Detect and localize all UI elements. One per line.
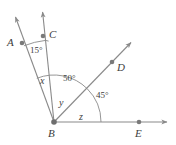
point-dot-C — [41, 34, 46, 39]
point-dot-E — [137, 120, 142, 125]
point-label-C: C — [49, 29, 56, 40]
point-label-E: E — [135, 128, 142, 139]
angle-label-y: y — [59, 98, 63, 108]
point-dot-D — [110, 60, 115, 65]
angle-label-x: x — [40, 76, 44, 86]
angle-label-z: z — [79, 112, 83, 122]
point-dot-A — [20, 41, 25, 46]
point-label-B: B — [48, 128, 55, 139]
point-label-D: D — [117, 62, 125, 73]
point-dot-B — [51, 119, 57, 125]
angle-diagram — [0, 0, 176, 145]
point-label-A: A — [7, 37, 14, 48]
angle-label-50deg: 50° — [63, 74, 76, 83]
angle-label-45deg: 45° — [96, 91, 109, 100]
angle-label-15deg: 15° — [30, 46, 43, 55]
